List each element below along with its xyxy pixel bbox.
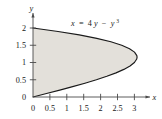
equation-lhs: x xyxy=(70,19,75,28)
x-axis-tick-labels: 00.511.522.53 xyxy=(31,104,136,113)
equation-term2-var: y xyxy=(110,19,115,28)
equation-minus: − xyxy=(102,19,107,28)
equation-term1-var: y xyxy=(93,19,98,28)
plot-area: 00.511.522.53 00.511.52 x y x = 4 y − y … xyxy=(0,0,162,119)
x-tick-label: 0.5 xyxy=(45,104,55,113)
x-axis-label: x xyxy=(152,93,157,102)
equation-coefficient: 4 xyxy=(88,19,92,28)
x-tick-label: 1 xyxy=(65,104,69,113)
y-axis-arrow-icon xyxy=(31,13,34,18)
x-tick-label: 0 xyxy=(31,104,35,113)
y-axis-tick-labels: 00.511.52 xyxy=(16,24,26,102)
y-axis-label: y xyxy=(29,4,34,13)
y-tick-label: 0 xyxy=(22,93,26,102)
x-tick-label: 3 xyxy=(132,104,136,113)
equation-label: x = 4 y − y 3 xyxy=(70,18,119,28)
x-tick-label: 1.5 xyxy=(79,104,89,113)
x-tick-label: 2 xyxy=(99,104,103,113)
equation-equals: = xyxy=(79,19,84,28)
x-tick-label: 2.5 xyxy=(112,104,122,113)
figure-container: 00.511.522.53 00.511.52 x y x = 4 y − y … xyxy=(0,0,162,119)
y-tick-label: 0.5 xyxy=(16,76,26,85)
x-axis-arrow-icon xyxy=(146,95,151,98)
shaded-region xyxy=(33,28,137,97)
y-tick-label: 1 xyxy=(22,58,26,67)
y-tick-label: 2 xyxy=(22,24,26,33)
equation-exponent: 3 xyxy=(116,18,119,24)
y-tick-label: 1.5 xyxy=(16,41,26,50)
